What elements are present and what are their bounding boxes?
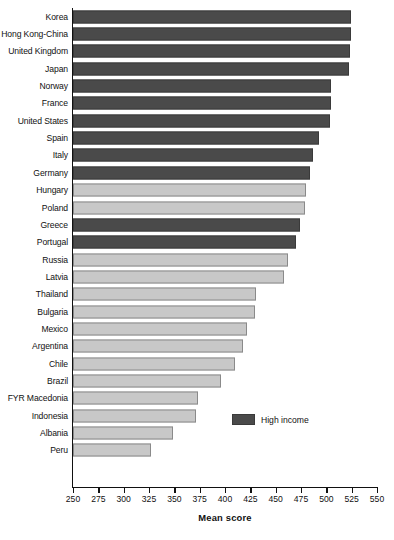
x-tick-label: 325 [142,494,156,504]
bar [73,149,313,162]
x-tick [124,488,125,493]
x-tick-label: 275 [91,494,105,504]
x-tick-label: 400 [218,494,232,504]
bar-row: Thailand [73,286,377,303]
category-label: Japan [45,64,68,74]
bar-row: Korea [73,8,377,25]
bar-chart: KoreaHong Kong-ChinaUnited KingdomJapanN… [0,0,394,540]
category-label: United States [18,116,68,126]
x-tick [73,488,74,493]
bar-row: Poland [73,199,377,216]
category-label: Norway [39,81,68,91]
x-tick-label: 450 [268,494,282,504]
bar [73,270,284,283]
category-label: Korea [46,12,68,22]
category-label: France [42,98,68,108]
bar [73,305,255,318]
x-tick-label: 350 [167,494,181,504]
bar-row: Portugal [73,234,377,251]
bar-row: United Kingdom [73,43,377,60]
bar [73,253,288,266]
legend-swatch-high-income [232,414,255,425]
bar [73,132,319,145]
category-label: Brazil [47,376,68,386]
bar [73,340,243,353]
bar [73,45,350,58]
x-tick [276,488,277,493]
bar-row: Greece [73,216,377,233]
category-label: Albania [40,428,68,438]
bar [73,201,305,214]
x-tick [377,488,378,493]
bar-row: Italy [73,147,377,164]
category-label: Poland [42,203,68,213]
category-label: FYR Macedonia [8,393,68,403]
x-tick-label: 500 [319,494,333,504]
x-tick-label: 300 [116,494,130,504]
bar [73,392,198,405]
bar [73,62,349,75]
plot-area: KoreaHong Kong-ChinaUnited KingdomJapanN… [73,8,377,480]
x-tick [301,488,302,493]
bar-row: United States [73,112,377,129]
category-label: Latvia [46,272,68,282]
bar-row: Norway [73,77,377,94]
bar [73,80,331,93]
bar-row: Latvia [73,268,377,285]
bar-row: Albania [73,424,377,441]
bar-row: FYR Macedonia [73,390,377,407]
bar [73,288,256,301]
bar-row: France [73,95,377,112]
bar [73,409,196,422]
category-label: United Kingdom [8,46,68,56]
bar [73,322,247,335]
x-tick-label: 425 [243,494,257,504]
x-axis-title: Mean score [73,512,377,523]
bar [73,114,330,127]
bar-row: Chile [73,355,377,372]
legend-label-high-income: High income [261,415,309,425]
bar [73,236,296,249]
category-label: Greece [40,220,68,230]
category-label: Hungary [36,185,68,195]
x-tick-label: 250 [66,494,80,504]
x-tick [200,488,201,493]
bar [73,427,173,440]
bar [73,10,351,23]
x-tick-label: 550 [370,494,384,504]
bar [73,444,151,457]
x-tick [149,488,150,493]
bar-row: Japan [73,60,377,77]
category-label: Germany [33,168,68,178]
bar-row: Spain [73,129,377,146]
category-label: Italy [53,150,68,160]
bar-row: Russia [73,251,377,268]
bar-row: Germany [73,164,377,181]
x-tick-label: 525 [344,494,358,504]
x-tick [250,488,251,493]
bar [73,166,310,179]
bar [73,357,235,370]
bar-row: Argentina [73,338,377,355]
category-label: Portugal [37,237,68,247]
bar-row: Hungary [73,182,377,199]
x-tick-label: 375 [192,494,206,504]
category-label: Chile [49,359,68,369]
category-label: Thailand [36,289,68,299]
x-tick [352,488,353,493]
category-label: Bulgaria [37,307,68,317]
bar [73,97,331,110]
bar [73,28,351,41]
bar [73,375,221,388]
category-label: Indonesia [32,411,68,421]
bar-row: Brazil [73,372,377,389]
category-label: Mexico [41,324,68,334]
category-label: Russia [42,255,68,265]
category-label: Argentina [32,341,68,351]
x-tick-label: 475 [294,494,308,504]
bar [73,218,300,231]
category-label: Hong Kong-China [1,29,68,39]
bar-row: Indonesia [73,407,377,424]
bar [73,184,306,197]
bar-row: Bulgaria [73,303,377,320]
